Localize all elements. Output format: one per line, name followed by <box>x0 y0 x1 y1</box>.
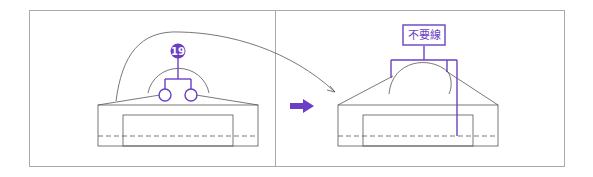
outer-frame <box>30 11 565 167</box>
left-annotation <box>159 58 197 101</box>
right-annotation <box>391 46 457 136</box>
label-box-text: 不要線 <box>408 28 441 42</box>
right-figure <box>338 63 498 146</box>
outer-frame <box>30 11 276 167</box>
arrow-right-icon <box>290 99 314 113</box>
diagram-canvas: 19 不要線 <box>0 0 593 177</box>
left-figure <box>98 32 335 146</box>
badge-number: 19 <box>171 46 185 57</box>
